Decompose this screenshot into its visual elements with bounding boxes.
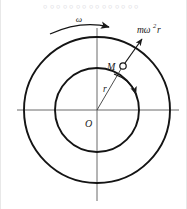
mechanics-diagram-canvas: ω mω 2 r M r O <box>1 0 187 209</box>
origin-label: O <box>85 118 92 129</box>
force-label-base: mω <box>137 25 151 35</box>
angular-velocity-label: ω <box>76 14 82 24</box>
angular-velocity-arc-arrow <box>50 25 109 34</box>
radius-label: r <box>103 84 107 94</box>
axes-group <box>17 28 179 201</box>
figure-root: 。。。。。。。。。。。。。。。 <box>0 0 187 209</box>
centrifugal-force-label: mω 2 r <box>137 22 161 35</box>
force-label-tail: r <box>157 25 161 35</box>
tangential-arc-arrow <box>114 74 136 94</box>
point-mass-label: M <box>106 61 116 72</box>
point-mass-marker <box>120 63 126 69</box>
